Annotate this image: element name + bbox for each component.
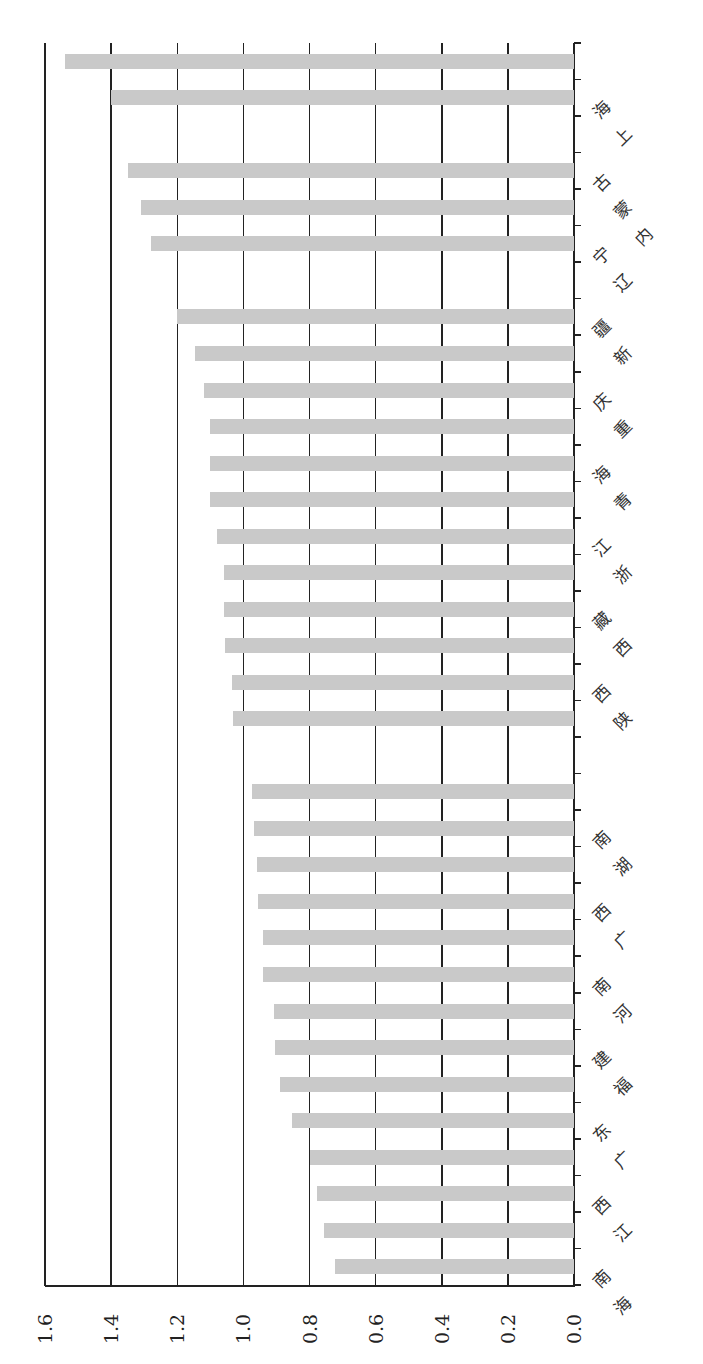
value-tick-label: 1.4: [100, 1309, 122, 1349]
category-label-char: 福: [607, 1070, 637, 1100]
category-label-char: 海: [586, 459, 616, 489]
axis-tick: [574, 334, 581, 336]
category-label-char: 南: [586, 824, 616, 854]
axis-tick: [574, 188, 581, 190]
category-label-char: 西: [586, 897, 616, 927]
axis-tick: [574, 42, 581, 44]
axis-tick: [574, 955, 581, 957]
category-label-char: 古: [586, 166, 616, 196]
category-label-char: 新: [607, 340, 637, 370]
gridline: [243, 43, 245, 1286]
bar: [254, 821, 574, 836]
bar: [65, 54, 574, 69]
axis-tick: [574, 115, 581, 117]
bar: [204, 383, 574, 398]
axis-tick: [574, 919, 581, 921]
value-tick-label: 1.0: [232, 1309, 254, 1349]
bar: [151, 236, 574, 251]
category-label-char: 蒙: [607, 193, 637, 223]
bar: [210, 492, 574, 507]
axis-tick: [574, 152, 581, 154]
value-tick-label: 0.0: [563, 1309, 585, 1349]
category-label-char: 南: [586, 1262, 616, 1292]
axis-tick: [574, 444, 581, 446]
bar: [324, 1223, 574, 1238]
category-label-char: 东: [586, 1116, 616, 1146]
category-label-char: 海: [586, 93, 616, 123]
category-label-char: 陕: [607, 705, 637, 735]
category-label-char: 藏: [586, 605, 616, 635]
bar: [252, 784, 574, 799]
axis-tick: [574, 809, 581, 811]
axis-tick: [574, 1284, 581, 1286]
category-label-char: 疆: [586, 313, 616, 343]
axis-tick: [574, 261, 581, 263]
axis-tick: [574, 1175, 581, 1177]
bar: [224, 565, 574, 580]
category-label-char: 河: [607, 997, 637, 1027]
bar: [141, 200, 574, 215]
axis-tick: [574, 408, 581, 410]
bar: [317, 1186, 574, 1201]
category-label-char: 宁: [586, 240, 616, 270]
value-tick-label: 0.6: [365, 1309, 387, 1349]
bar: [263, 967, 574, 982]
bar: [128, 163, 574, 178]
axis-tick: [574, 663, 581, 665]
bar: [263, 930, 574, 945]
category-label-char: 湖: [607, 851, 637, 881]
category-label-char: 青: [607, 486, 637, 516]
axis-tick: [574, 298, 581, 300]
axis-tick: [574, 554, 581, 556]
bar: [274, 1004, 574, 1019]
bar: [233, 711, 574, 726]
category-label-char: 重: [607, 413, 637, 443]
value-tick-label: 1.6: [34, 1309, 56, 1349]
gridline: [177, 43, 179, 1286]
category-label-char: 江: [607, 1216, 637, 1246]
gridline: [309, 43, 311, 1286]
axis-tick: [574, 1029, 581, 1031]
category-label-char: 南: [586, 970, 616, 1000]
axis-tick: [574, 1248, 581, 1250]
bar: [111, 90, 574, 105]
category-label-char: 海: [607, 1289, 637, 1319]
bar: [210, 419, 574, 434]
value-tick-label: 0.4: [431, 1309, 453, 1349]
axis-tick: [574, 517, 581, 519]
bar: [310, 1150, 575, 1165]
gridline: [110, 43, 112, 1286]
category-label-char: 建: [586, 1043, 616, 1073]
category-label-char: 浙: [607, 559, 637, 589]
axis-tick: [574, 700, 581, 702]
axis-tick: [574, 992, 581, 994]
gridline: [44, 43, 46, 1286]
bar: [232, 675, 574, 690]
category-label-char: 西: [586, 1189, 616, 1219]
category-label-char: 庆: [586, 386, 616, 416]
category-label-char: 上: [607, 120, 637, 150]
axis-tick: [574, 1065, 581, 1067]
value-tick-label: 0.8: [299, 1309, 321, 1349]
gridline: [507, 43, 509, 1286]
axis-tick: [574, 882, 581, 884]
axis-tick: [574, 773, 581, 775]
bar: [195, 346, 574, 361]
bar: [292, 1113, 574, 1128]
axis-tick: [574, 79, 581, 81]
bar: [280, 1077, 574, 1092]
value-tick-label: 0.2: [497, 1309, 519, 1349]
bar: [224, 602, 574, 617]
axis-tick: [574, 627, 581, 629]
category-label-char: 内: [628, 220, 658, 250]
bar: [217, 529, 574, 544]
bar-chart: 1.61.41.21.00.80.60.40.20.0 海上古蒙内宁辽疆新庆重海…: [0, 0, 703, 1364]
bar: [225, 638, 574, 653]
value-tick-label: 1.2: [166, 1309, 188, 1349]
category-label-char: 广: [607, 1143, 637, 1173]
axis-tick: [574, 225, 581, 227]
axis-tick: [574, 371, 581, 373]
bar: [257, 857, 574, 872]
bar: [275, 1040, 574, 1055]
gridline: [441, 43, 443, 1286]
